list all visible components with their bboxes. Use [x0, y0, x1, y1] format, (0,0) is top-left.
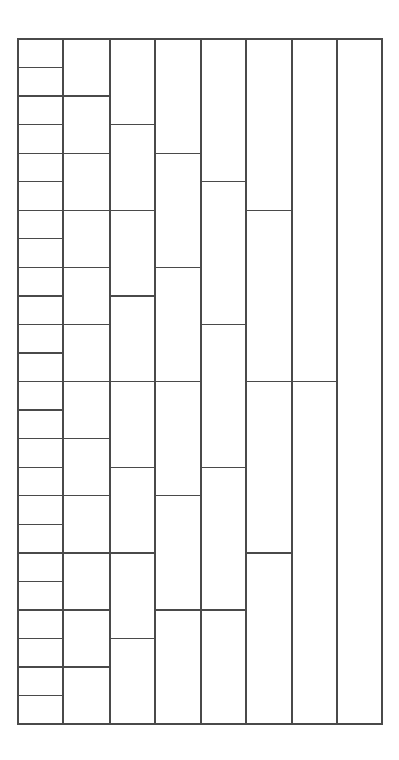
subdivision-grid-figure [0, 0, 399, 760]
figure-canvas [0, 0, 399, 760]
